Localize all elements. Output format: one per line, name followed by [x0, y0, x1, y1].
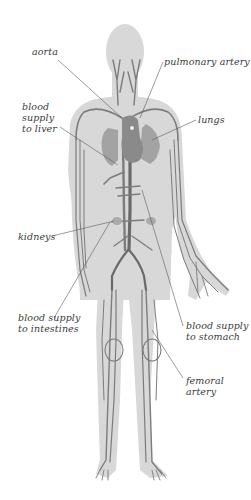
label-kidneys: kidneys: [18, 231, 56, 242]
label-blood-supply-stomach: blood supply to stomach: [186, 320, 248, 342]
circulatory-diagram: [0, 0, 251, 500]
label-blood-supply-intestines: blood supply to intestines: [18, 312, 80, 334]
label-femoral-artery: femoral artery: [186, 375, 224, 397]
body-silhouette: [68, 24, 230, 478]
label-lungs: lungs: [198, 114, 225, 125]
label-aorta: aorta: [32, 46, 58, 57]
label-blood-supply-liver: blood supply to liver: [22, 101, 57, 134]
label-pulmonary-artery: pulmonary artery: [164, 56, 250, 67]
